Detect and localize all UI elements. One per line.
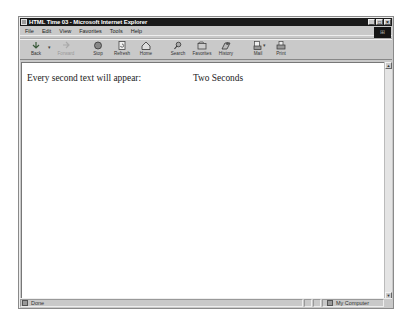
status-pane-main: Done (20, 299, 303, 307)
forward-arrow-icon (61, 41, 71, 50)
stop-icon (93, 41, 103, 50)
page-done-icon (22, 300, 28, 306)
menu-bar: File Edit View Favorites Tools Help (20, 27, 392, 36)
title-bar[interactable]: HTML Time 03 - Microsoft Internet Explor… (20, 18, 392, 26)
status-pane-zone: My Computer (322, 299, 384, 307)
history-button[interactable]: History (214, 39, 238, 59)
forward-button[interactable]: Forward (54, 39, 78, 59)
home-icon (141, 41, 151, 50)
menu-edit[interactable]: Edit (42, 28, 51, 34)
close-button[interactable]: × (384, 19, 391, 25)
menu-favorites[interactable]: Favorites (79, 28, 102, 34)
timed-value: Two Seconds (193, 73, 243, 83)
scroll-up-button[interactable]: ▲ (385, 62, 392, 69)
print-button[interactable]: Print (269, 39, 293, 59)
history-icon (221, 41, 231, 50)
status-pane-secure (313, 299, 321, 307)
favorites-button[interactable]: Favorites (190, 39, 214, 59)
standard-toolbar: Back ▾ Forward Stop Refresh Home (20, 38, 392, 60)
zone-text: My Computer (336, 300, 369, 306)
windows-logo-throbber-icon: ⊞ (374, 27, 391, 38)
page-text: Every second text will appear: (27, 73, 141, 83)
favorites-icon (197, 41, 207, 50)
page-content: Every second text will appear: Two Secon… (21, 62, 385, 299)
refresh-icon (117, 41, 127, 50)
stop-button[interactable]: Stop (86, 39, 110, 59)
maximize-button[interactable]: □ (376, 19, 383, 25)
ie-app-icon[interactable] (21, 19, 27, 25)
status-text: Done (31, 300, 44, 306)
back-arrow-icon (31, 41, 41, 50)
mail-icon (253, 41, 263, 50)
computer-zone-icon (327, 300, 333, 306)
menu-view[interactable]: View (59, 28, 71, 34)
status-pane-progress (304, 299, 312, 307)
back-button[interactable]: Back (24, 39, 48, 59)
window-title: HTML Time 03 - Microsoft Internet Explor… (29, 18, 367, 26)
home-button[interactable]: Home (134, 39, 158, 59)
vertical-scrollbar[interactable]: ▲ ▼ (384, 62, 392, 299)
print-icon (276, 41, 286, 50)
search-button[interactable]: Search (166, 39, 190, 59)
minimize-button[interactable]: _ (368, 19, 375, 25)
menu-file[interactable]: File (25, 28, 34, 34)
browser-window: HTML Time 03 - Microsoft Internet Explor… (18, 16, 394, 309)
resize-grip[interactable] (384, 299, 392, 307)
status-bar: Done My Computer (20, 298, 392, 307)
search-icon (173, 41, 183, 50)
refresh-button[interactable]: Refresh (110, 39, 134, 59)
menu-tools[interactable]: Tools (110, 28, 123, 34)
menu-help[interactable]: Help (131, 28, 142, 34)
